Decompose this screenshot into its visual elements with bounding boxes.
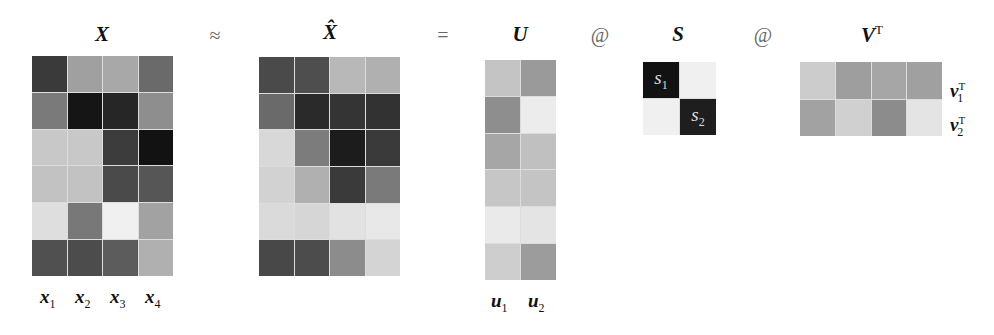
matrix-cell — [32, 203, 67, 239]
matrix-cell — [907, 100, 942, 137]
matrix-cell — [295, 240, 330, 276]
matrix-cell — [521, 60, 556, 96]
matrix-u-grid — [485, 60, 556, 280]
matrix-cell — [366, 167, 401, 203]
matrix-cell — [103, 240, 138, 276]
u2-label: u2 — [528, 290, 545, 316]
matrix-cell — [139, 93, 174, 129]
matrix-vt-grid — [800, 62, 942, 136]
v2t-label: vT2 — [950, 114, 963, 140]
matrix-cell — [521, 244, 556, 280]
matrix-cell — [295, 167, 330, 203]
matrix-u-title: U — [500, 22, 540, 47]
matrix-cell — [139, 56, 174, 92]
approx-operator: ≈ — [200, 24, 230, 47]
matrix-cell — [836, 62, 871, 99]
matrix-cell — [68, 130, 103, 166]
matrix-cell — [32, 56, 67, 92]
matrix-cell — [139, 203, 174, 239]
matrix-cell — [259, 94, 294, 130]
matrix-cell — [139, 240, 174, 276]
matrix-cell — [366, 240, 401, 276]
matrix-cell — [103, 56, 138, 92]
matrix-cell — [68, 203, 103, 239]
x1-label: x1 — [40, 286, 56, 312]
matrix-cell — [485, 60, 520, 96]
matrix-xhat-grid — [259, 57, 400, 276]
matrix-cell — [259, 130, 294, 166]
matrix-x-title: X — [82, 22, 122, 47]
matrix-cell — [32, 130, 67, 166]
u1-label: u1 — [491, 290, 508, 316]
matrix-xhat-title: X̂ — [310, 20, 350, 45]
matrix-cell — [521, 134, 556, 170]
matrix-x-grid — [32, 56, 173, 276]
matrix-cell — [521, 170, 556, 206]
matrix-cell — [330, 240, 365, 276]
matrix-cell: s2 — [680, 99, 716, 135]
matrix-cell — [643, 99, 679, 135]
matrix-cell — [366, 94, 401, 130]
matrix-cell — [68, 166, 103, 202]
matrix-cell — [485, 170, 520, 206]
matrix-vt-title: VT — [852, 22, 892, 48]
matrix-s-grid: s1s2 — [643, 62, 716, 135]
matrix-cell — [259, 167, 294, 203]
matrix-cell — [103, 203, 138, 239]
singular-value-label: s2 — [691, 104, 704, 130]
matrix-cell — [872, 62, 907, 99]
matrix-cell — [139, 166, 174, 202]
matrix-cell — [521, 97, 556, 133]
vt-label-text: V — [861, 23, 875, 47]
matrix-cell — [32, 240, 67, 276]
matrix-cell — [259, 204, 294, 240]
x4-label: x4 — [145, 286, 161, 312]
matrix-cell — [836, 100, 871, 137]
matrix-cell — [295, 57, 330, 93]
v1t-label: vT1 — [950, 80, 963, 106]
matrix-cell — [295, 204, 330, 240]
matrix-cell — [872, 100, 907, 137]
matrix-cell — [330, 204, 365, 240]
matrix-cell — [295, 94, 330, 130]
matrix-cell — [259, 240, 294, 276]
matrix-cell — [366, 204, 401, 240]
matrix-cell — [366, 57, 401, 93]
matrix-cell — [485, 207, 520, 243]
matrix-cell — [485, 97, 520, 133]
matrix-cell — [521, 207, 556, 243]
matrix-cell — [366, 130, 401, 166]
matrix-cell — [330, 130, 365, 166]
matrix-cell — [800, 100, 835, 137]
matrix-cell — [330, 167, 365, 203]
matrix-cell — [295, 130, 330, 166]
vt-label-sup: T — [875, 22, 883, 37]
x3-label: x3 — [110, 286, 126, 312]
matrix-cell — [103, 130, 138, 166]
matrix-cell — [68, 56, 103, 92]
matrix-cell — [680, 62, 716, 98]
equals-operator: = — [428, 24, 458, 47]
matmul-operator-2: @ — [748, 24, 778, 47]
matrix-cell: s1 — [643, 62, 679, 98]
matrix-cell — [259, 57, 294, 93]
matrix-cell — [485, 134, 520, 170]
matrix-cell — [103, 93, 138, 129]
singular-value-label: s1 — [654, 67, 667, 93]
matrix-cell — [907, 62, 942, 99]
matrix-cell — [103, 166, 138, 202]
matrix-cell — [68, 240, 103, 276]
matrix-cell — [800, 62, 835, 99]
matrix-cell — [330, 94, 365, 130]
matrix-s-title: S — [658, 22, 698, 47]
matmul-operator-1: @ — [585, 24, 615, 47]
x2-label: x2 — [75, 286, 91, 312]
matrix-cell — [32, 166, 67, 202]
matrix-cell — [330, 57, 365, 93]
matrix-cell — [68, 93, 103, 129]
matrix-cell — [485, 244, 520, 280]
matrix-cell — [32, 93, 67, 129]
matrix-cell — [139, 130, 174, 166]
